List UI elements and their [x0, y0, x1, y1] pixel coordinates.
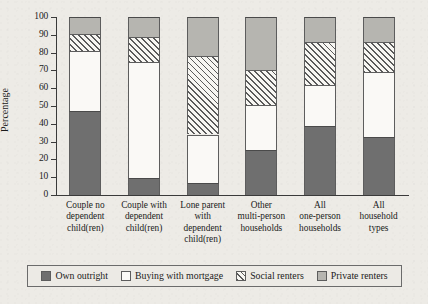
bar-segment-own[interactable]: [128, 178, 160, 195]
y-axis-title: Percentage: [0, 0, 13, 60]
bar-segment-buy[interactable]: [187, 135, 219, 183]
bar-segment-social[interactable]: [363, 42, 395, 72]
legend-swatch-own-icon: [41, 271, 51, 281]
legend-label: Private renters: [331, 271, 388, 281]
bar-column[interactable]: [245, 17, 277, 195]
legend-item[interactable]: Buying with mortgage: [121, 271, 223, 281]
bar-segment-social[interactable]: [245, 70, 277, 106]
bar-segment-own[interactable]: [304, 126, 336, 195]
bar-stack: [245, 17, 277, 195]
bar-stack: [187, 17, 219, 195]
bar-segment-buy[interactable]: [363, 72, 395, 137]
legend-item[interactable]: Social renters: [236, 271, 304, 281]
bar-segment-own[interactable]: [69, 111, 101, 195]
x-axis-label-line: All: [337, 200, 421, 211]
bar-segment-priv[interactable]: [363, 17, 395, 42]
bar-segment-priv[interactable]: [187, 17, 219, 56]
bar-segment-own[interactable]: [363, 137, 395, 195]
legend-swatch-buy-icon: [121, 271, 131, 281]
x-axis-line: [56, 195, 409, 196]
y-axis-tick-label: 0: [22, 190, 48, 200]
x-axis-label-line: household: [337, 211, 421, 222]
bar-column[interactable]: [363, 17, 395, 195]
bar-segment-buy[interactable]: [245, 105, 277, 150]
bar-segment-buy[interactable]: [69, 51, 101, 112]
bar-segment-buy[interactable]: [128, 62, 160, 179]
legend-swatch-social-icon: [236, 271, 246, 281]
bar-stack: [363, 17, 395, 195]
bar-stack: [304, 17, 336, 195]
legend-label: Social renters: [250, 271, 304, 281]
plot-area: [56, 17, 408, 195]
x-axis-label-line: types: [337, 223, 421, 234]
legend-swatch-priv-icon: [317, 271, 327, 281]
bar-segment-social[interactable]: [187, 56, 219, 134]
x-axis-label: Allhouseholdtypes: [337, 200, 421, 234]
y-axis-tick-label: 10: [22, 172, 48, 182]
bar-segment-buy[interactable]: [304, 85, 336, 126]
chart-legend: Own outrightBuying with mortgageSocial r…: [27, 265, 402, 287]
y-axis-tick-label: 80: [22, 48, 48, 58]
bar-column[interactable]: [128, 17, 160, 195]
bar-segment-priv[interactable]: [69, 17, 101, 34]
legend-item[interactable]: Own outright: [41, 271, 108, 281]
x-axis-label-line: child(ren): [161, 234, 245, 245]
y-axis-tick-label: 50: [22, 101, 48, 111]
bar-column[interactable]: [187, 17, 219, 195]
bar-segment-own[interactable]: [187, 183, 219, 195]
bar-stack: [128, 17, 160, 195]
bar-segment-priv[interactable]: [245, 17, 277, 70]
legend-item[interactable]: Private renters: [317, 271, 388, 281]
bar-segment-social[interactable]: [304, 42, 336, 85]
y-axis-tick-label: 40: [22, 119, 48, 129]
bar-column[interactable]: [69, 17, 101, 195]
legend-label: Own outright: [55, 271, 108, 281]
y-axis-tick-label: 90: [22, 30, 48, 40]
bar-segment-own[interactable]: [245, 150, 277, 195]
y-axis-tick-label: 20: [22, 154, 48, 164]
bar-segment-priv[interactable]: [128, 17, 160, 37]
bar-column[interactable]: [304, 17, 336, 195]
y-axis-tick-label: 70: [22, 65, 48, 75]
bar-segment-social[interactable]: [69, 34, 101, 51]
bar-stack: [69, 17, 101, 195]
bar-segment-priv[interactable]: [304, 17, 336, 42]
stacked-bar-chart: Percentage 0102030405060708090100 Couple…: [0, 0, 428, 304]
y-axis-tick-label: 100: [22, 12, 48, 22]
y-axis-tick-label: 60: [22, 83, 48, 93]
legend-label: Buying with mortgage: [135, 271, 223, 281]
y-axis-tick-label: 30: [22, 137, 48, 147]
bar-segment-social[interactable]: [128, 37, 160, 61]
y-axis-tick: [51, 195, 56, 196]
